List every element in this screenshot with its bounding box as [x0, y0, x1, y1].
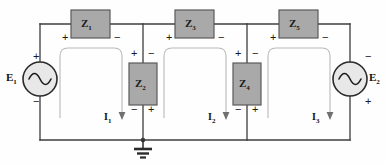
ground-symbol — [134, 140, 152, 158]
mesh-current-label-i3: I3 — [312, 112, 319, 125]
i1-subscript: 1 — [108, 117, 112, 125]
mesh-loop-3 — [268, 48, 330, 118]
mesh-current-label-i1: I1 — [104, 112, 111, 125]
source-label-e1: E1 — [6, 72, 17, 86]
mesh-loop-1 — [60, 48, 122, 118]
z2-subscript: 2 — [142, 84, 146, 92]
impedance-label-z4: Z4 — [239, 78, 250, 92]
mesh-loop-2 — [164, 48, 226, 118]
impedance-label-z5: Z5 — [289, 18, 300, 32]
polarity-z2-top-minus: − — [148, 48, 154, 59]
z3-subscript: 3 — [192, 24, 196, 32]
z4-subscript: 4 — [246, 84, 250, 92]
polarity-e2-minus: − — [365, 51, 371, 62]
impedance-label-z3: Z3 — [185, 18, 196, 32]
polarity-z5-plus: + — [270, 32, 276, 43]
polarity-z4-bottom-minus: − — [235, 104, 241, 115]
polarity-z2-bottom-plus: + — [148, 104, 154, 115]
polarity-z4-top-minus: − — [252, 48, 258, 59]
z5-subscript: 5 — [296, 24, 300, 32]
polarity-e1-plus: + — [33, 51, 39, 62]
source-label-e2: E2 — [369, 72, 380, 86]
polarity-z4-bottom-plus: + — [252, 104, 258, 115]
i3-subscript: 3 — [316, 117, 320, 125]
source-e2 — [333, 62, 367, 96]
e2-subscript: 2 — [376, 78, 380, 86]
wire-group — [40, 24, 350, 140]
polarity-z5-minus: − — [322, 32, 328, 43]
polarity-z1-plus: + — [62, 32, 68, 43]
polarity-z3-plus: + — [166, 32, 172, 43]
polarity-e1-minus: − — [33, 96, 39, 107]
mesh-arrow-1 — [119, 112, 126, 120]
polarity-z2-bottom-minus: − — [131, 104, 137, 115]
polarity-z4-top-plus: + — [235, 48, 241, 59]
mesh-arrow-2 — [223, 112, 230, 120]
polarity-z3-minus: − — [218, 32, 224, 43]
z1-subscript: 1 — [88, 24, 92, 32]
source-e1 — [23, 62, 57, 96]
polarity-z2-top-plus: + — [131, 48, 137, 59]
i2-subscript: 2 — [212, 117, 216, 125]
polarity-z1-minus: − — [114, 32, 120, 43]
polarity-e2-plus: + — [365, 96, 371, 107]
impedance-label-z1: Z1 — [81, 18, 92, 32]
mesh-current-label-i2: I2 — [208, 112, 215, 125]
mesh-arrow-3 — [327, 112, 334, 120]
e1-subscript: 1 — [13, 78, 17, 86]
circuit-diagram: Z1 Z3 Z5 Z2 Z4 + − + − + − + − − + + − −… — [0, 0, 386, 164]
mesh-loop-group — [60, 48, 330, 118]
impedance-label-z2: Z2 — [135, 78, 146, 92]
